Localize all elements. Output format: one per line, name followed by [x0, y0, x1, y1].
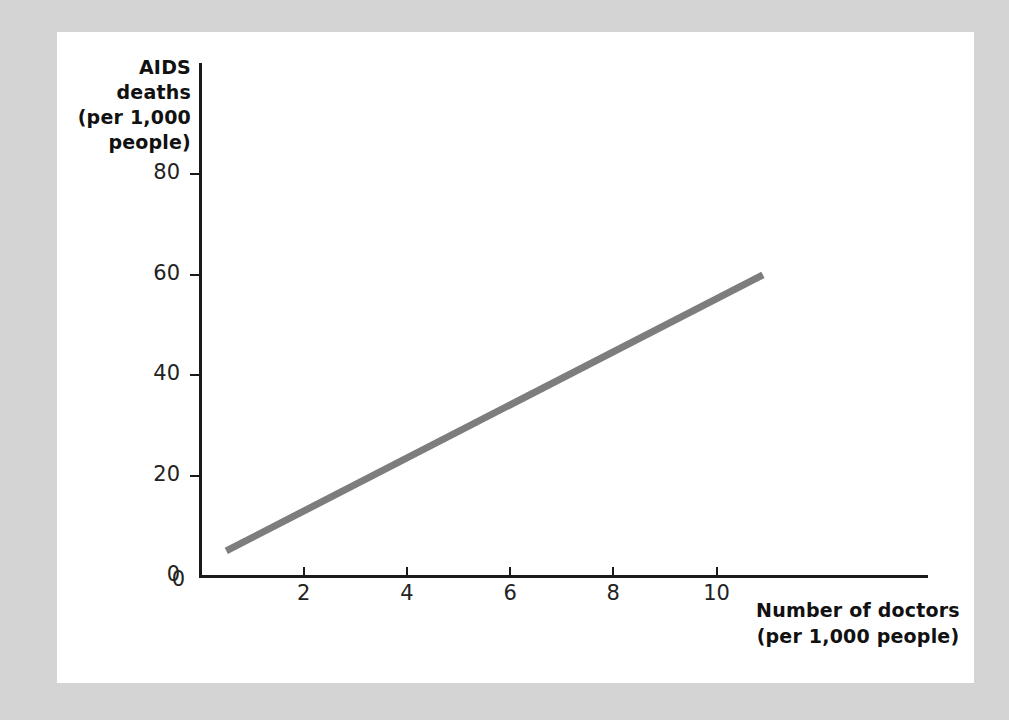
plot-area: AIDS deaths (per 1,000 people) Number of… — [57, 32, 974, 683]
series-line-0 — [226, 275, 763, 551]
chart-page: AIDS deaths (per 1,000 people) Number of… — [57, 32, 974, 683]
data-series-layer — [57, 32, 974, 683]
chart-figure: AIDS deaths (per 1,000 people) Number of… — [0, 0, 1009, 720]
